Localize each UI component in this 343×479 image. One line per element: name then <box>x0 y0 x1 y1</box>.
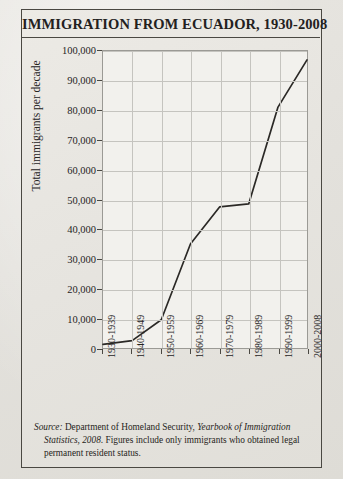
y-axis-tick-label: 0 <box>34 344 96 355</box>
gridline-vertical <box>221 51 222 348</box>
x-axis-tick-mark <box>102 349 103 354</box>
x-axis-tick-mark <box>131 349 132 354</box>
gridline-horizontal <box>103 81 307 82</box>
y-axis-tick-mark <box>97 289 102 290</box>
gridline-horizontal <box>103 260 307 261</box>
y-axis-tick-label: 60,000 <box>34 164 96 175</box>
source-note: Source: Department of Homeland Security,… <box>34 421 322 461</box>
x-axis-tick-label: 1980-1989 <box>253 315 264 358</box>
gridline-horizontal <box>103 320 307 321</box>
gridline-horizontal <box>103 290 307 291</box>
x-axis-tick-label: 1960-1969 <box>194 315 205 358</box>
y-axis-tick-mark <box>97 259 102 260</box>
gridline-vertical <box>280 51 281 348</box>
x-axis-tick-label: 1970-1979 <box>224 315 235 358</box>
source-label: Source: <box>34 422 63 432</box>
y-axis-tick-label: 90,000 <box>34 74 96 85</box>
y-axis-tick-mark <box>97 319 102 320</box>
plot-area <box>102 50 308 349</box>
x-axis-tick-mark <box>220 349 221 354</box>
y-axis-tick-mark <box>97 229 102 230</box>
gridline-horizontal <box>103 111 307 112</box>
y-axis-tick-mark <box>97 110 102 111</box>
x-axis-tick-label: 1990-1999 <box>283 315 294 358</box>
x-axis-tick-label: 1930-1939 <box>106 315 117 358</box>
y-axis-tick-label: 80,000 <box>34 104 96 115</box>
gridline-horizontal <box>103 171 307 172</box>
gridline-vertical <box>250 51 251 348</box>
x-axis-tick-mark <box>249 349 250 354</box>
source-agency: Department of Homeland Security, <box>63 422 198 432</box>
gridline-horizontal <box>103 230 307 231</box>
chart-container: Total immigrants per decade 010,00020,00… <box>0 0 343 479</box>
gridline-horizontal <box>103 141 307 142</box>
y-axis-tick-label: 100,000 <box>34 45 96 56</box>
gridline-vertical <box>191 51 192 348</box>
y-axis-tick-mark <box>97 140 102 141</box>
y-axis-tick-mark <box>97 170 102 171</box>
line-series <box>103 51 307 348</box>
x-axis-tick-label: 2000-2008 <box>312 315 323 358</box>
x-axis-tick-label: 1950-1959 <box>165 315 176 358</box>
x-axis-tick-label: 1940-1949 <box>135 315 146 358</box>
y-axis-tick-mark <box>97 50 102 51</box>
y-axis-tick-label: 70,000 <box>34 134 96 145</box>
x-axis-tick-mark <box>190 349 191 354</box>
scanned-page: IMMIGRATION FROM ECUADOR, 1930-2008 Tota… <box>0 0 343 479</box>
y-axis-tick-mark <box>97 200 102 201</box>
gridline-vertical <box>132 51 133 348</box>
x-axis-tick-mark <box>308 349 309 354</box>
y-axis-tick-mark <box>97 80 102 81</box>
x-axis-tick-mark <box>279 349 280 354</box>
gridline-horizontal <box>103 201 307 202</box>
y-axis-tick-label: 20,000 <box>34 284 96 295</box>
y-axis-tick-label: 40,000 <box>34 224 96 235</box>
y-axis-tick-label: 30,000 <box>34 254 96 265</box>
gridline-horizontal <box>103 51 307 52</box>
gridline-vertical <box>162 51 163 348</box>
y-axis-tick-label: 50,000 <box>34 194 96 205</box>
x-axis-tick-mark <box>161 349 162 354</box>
y-axis-tick-label: 10,000 <box>34 314 96 325</box>
